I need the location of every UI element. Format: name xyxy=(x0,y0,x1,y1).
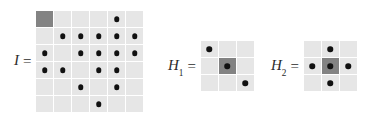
matrix-cell xyxy=(322,58,339,74)
matrix-cell xyxy=(54,96,71,112)
cell-dot-icon xyxy=(346,63,352,69)
matrix-cell xyxy=(219,41,236,57)
matrix-cell xyxy=(126,11,143,27)
cell-dot-icon xyxy=(207,46,213,52)
cell-dot-icon xyxy=(78,50,84,56)
matrix-cell xyxy=(90,11,107,27)
equals-sign-image: = xyxy=(23,53,31,70)
kernel-h1-label: H1 xyxy=(168,57,184,76)
image-matrix-label: I xyxy=(14,52,19,71)
matrix-cell xyxy=(201,58,218,74)
cell-dot-icon xyxy=(114,84,120,90)
matrix-cell xyxy=(54,45,71,61)
cell-dot-icon xyxy=(114,67,120,73)
matrix-cell xyxy=(90,28,107,44)
kernel-h2-label-subscript: 2 xyxy=(282,68,287,78)
cell-dot-icon xyxy=(78,84,84,90)
matrix-cell xyxy=(201,41,218,57)
kernel-h1-grid xyxy=(201,41,254,91)
cell-dot-icon xyxy=(114,16,120,22)
kernel-h2-group: H2 = xyxy=(271,41,357,91)
kernel-h2-label: H2 xyxy=(271,57,287,76)
kernel-h1-label-base: H xyxy=(168,57,179,73)
matrix-cell xyxy=(237,58,254,74)
cell-dot-icon xyxy=(96,33,102,39)
cell-dot-icon xyxy=(328,80,334,86)
cell-dot-icon xyxy=(132,33,138,39)
matrix-cell xyxy=(108,96,125,112)
kernel-h1-group: H1 = xyxy=(168,41,254,91)
matrix-cell xyxy=(322,41,339,57)
matrix-cell xyxy=(126,45,143,61)
cell-dot-icon xyxy=(225,63,231,69)
cell-dot-icon xyxy=(60,67,66,73)
matrix-cell xyxy=(36,28,53,44)
figure-root: I = H1 = H2 = xyxy=(0,0,373,121)
matrix-cell xyxy=(36,62,53,78)
matrix-cell xyxy=(36,79,53,95)
matrix-cell xyxy=(54,28,71,44)
image-matrix-grid xyxy=(36,11,143,112)
cell-dot-icon xyxy=(78,33,84,39)
matrix-cell xyxy=(340,75,357,91)
matrix-cell xyxy=(72,79,89,95)
cell-dot-icon xyxy=(60,33,66,39)
kernel-h1-label-subscript: 1 xyxy=(179,68,184,78)
cell-dot-icon xyxy=(310,63,316,69)
image-matrix-group: I = xyxy=(14,11,143,112)
kernel-h2-grid xyxy=(304,41,357,91)
matrix-cell xyxy=(108,62,125,78)
matrix-cell xyxy=(126,96,143,112)
matrix-cell xyxy=(304,58,321,74)
equals-sign-h1: = xyxy=(188,58,196,75)
matrix-cell xyxy=(126,28,143,44)
matrix-cell xyxy=(90,79,107,95)
cell-dot-icon xyxy=(42,50,48,56)
matrix-cell xyxy=(108,11,125,27)
cell-dot-icon xyxy=(328,46,334,52)
matrix-cell xyxy=(126,79,143,95)
matrix-cell xyxy=(90,62,107,78)
matrix-cell xyxy=(54,62,71,78)
matrix-cell xyxy=(108,28,125,44)
matrix-cell xyxy=(126,62,143,78)
matrix-cell xyxy=(201,75,218,91)
matrix-cell xyxy=(237,75,254,91)
matrix-cell xyxy=(36,11,53,27)
matrix-cell xyxy=(340,41,357,57)
equals-sign-h2: = xyxy=(291,58,299,75)
matrix-cell xyxy=(36,96,53,112)
cell-dot-icon xyxy=(114,50,120,56)
cell-dot-icon xyxy=(132,50,138,56)
matrix-cell xyxy=(340,58,357,74)
matrix-cell xyxy=(237,41,254,57)
matrix-cell xyxy=(90,45,107,61)
matrix-cell xyxy=(54,11,71,27)
cell-dot-icon xyxy=(42,67,48,73)
matrix-cell xyxy=(72,96,89,112)
matrix-cell xyxy=(108,79,125,95)
matrix-cell xyxy=(322,75,339,91)
cell-dot-icon xyxy=(96,50,102,56)
matrix-cell xyxy=(304,75,321,91)
matrix-cell xyxy=(36,45,53,61)
kernel-h2-label-base: H xyxy=(271,57,282,73)
matrix-cell xyxy=(72,11,89,27)
matrix-cell xyxy=(108,45,125,61)
cell-dot-icon xyxy=(243,80,249,86)
matrix-cell xyxy=(72,28,89,44)
matrix-cell xyxy=(72,62,89,78)
cell-dot-icon xyxy=(96,67,102,73)
image-matrix-label-base: I xyxy=(14,52,19,68)
matrix-cell xyxy=(72,45,89,61)
matrix-cell xyxy=(90,96,107,112)
cell-dot-icon xyxy=(96,101,102,107)
cell-dot-icon xyxy=(114,33,120,39)
cell-dot-icon xyxy=(328,63,334,69)
matrix-cell xyxy=(54,79,71,95)
matrix-cell xyxy=(219,58,236,74)
matrix-cell xyxy=(304,41,321,57)
matrix-cell xyxy=(219,75,236,91)
